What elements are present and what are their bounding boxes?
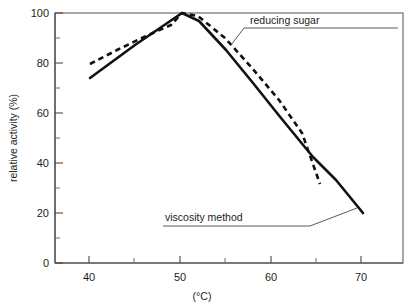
x-tick-label-50: 50: [174, 271, 186, 283]
x-axis-title: (°C): [193, 290, 212, 302]
annotation-reducing-sugar: reducing sugar: [250, 14, 320, 26]
line-chart: 100 80 60 40 20 0 40 50 60 70 (°C) relat…: [0, 0, 412, 308]
y-axis-title: relative activity (%): [7, 94, 19, 182]
x-tick-label-40: 40: [83, 271, 95, 283]
chart-figure: 100 80 60 40 20 0 40 50 60 70 (°C) relat…: [0, 0, 412, 308]
series-viscosity-method: [90, 13, 363, 213]
annotation-viscosity-method: viscosity method: [165, 211, 243, 223]
y-axis-ticks: [55, 13, 63, 263]
y-tick-label-0: 0: [43, 257, 49, 269]
x-axis-ticks: [89, 256, 361, 263]
y-tick-label-100: 100: [31, 7, 49, 19]
y-tick-label-20: 20: [37, 207, 49, 219]
y-tick-label-80: 80: [37, 57, 49, 69]
reducing-sugar-leader-line: [231, 28, 398, 45]
y-tick-label-60: 60: [37, 107, 49, 119]
x-tick-label-70: 70: [355, 271, 367, 283]
y-tick-label-40: 40: [37, 157, 49, 169]
x-tick-label-60: 60: [265, 271, 277, 283]
series-reducing-sugar: [90, 13, 320, 184]
